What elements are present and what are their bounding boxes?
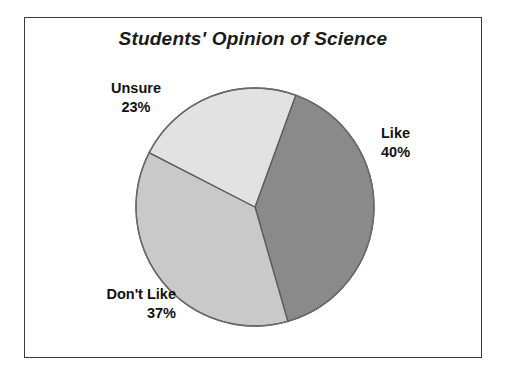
pie-label-dont-like: Don't Like 37% [46, 285, 176, 322]
pie-label-unsure-name: Unsure [84, 79, 188, 98]
pie-label-unsure-percent: 23% [84, 98, 188, 117]
pie-label-like: Like 40% [381, 124, 467, 161]
pie-label-like-name: Like [381, 124, 467, 143]
pie-label-unsure: Unsure 23% [84, 79, 188, 116]
pie-chart-figure: Students' Opinion of Science Unsure 23% … [0, 0, 506, 375]
pie-label-dont-like-percent: 37% [46, 304, 176, 323]
pie-label-like-percent: 40% [381, 143, 467, 162]
pie-label-dont-like-name: Don't Like [46, 285, 176, 304]
